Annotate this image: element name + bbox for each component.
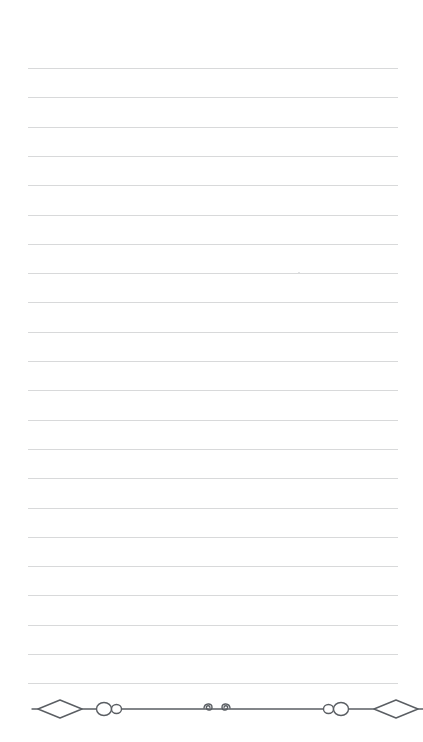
- right-small-circle: [324, 705, 334, 714]
- stray-speck: [298, 272, 300, 274]
- right-large-circle: [334, 703, 349, 716]
- left-diamond: [38, 700, 82, 718]
- bottom-ornament: [0, 689, 423, 729]
- notepaper-page: [0, 0, 423, 742]
- ornament-svg: [0, 689, 423, 729]
- left-large-circle: [97, 703, 112, 716]
- right-diamond: [374, 700, 418, 718]
- page-marks-group: [0, 0, 423, 742]
- left-small-circle: [112, 705, 122, 714]
